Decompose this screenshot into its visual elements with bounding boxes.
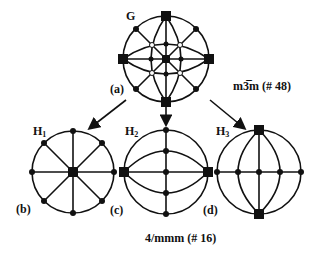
stereogram-figure — [0, 0, 316, 254]
label-a: (a) — [110, 82, 124, 97]
label-group-top: m3̅m (# 48) — [233, 79, 291, 94]
label-c: (c) — [110, 203, 123, 218]
label-h2: H2 — [125, 124, 138, 139]
label-h3: H3 — [216, 124, 229, 139]
arrow-to-h1 — [90, 100, 126, 128]
label-h1: H1 — [33, 124, 46, 139]
label-g: G — [126, 9, 135, 24]
label-group-bottom: 4/mmm (# 16) — [145, 231, 216, 246]
label-b: (b) — [16, 202, 31, 217]
label-d: (d) — [203, 203, 218, 218]
